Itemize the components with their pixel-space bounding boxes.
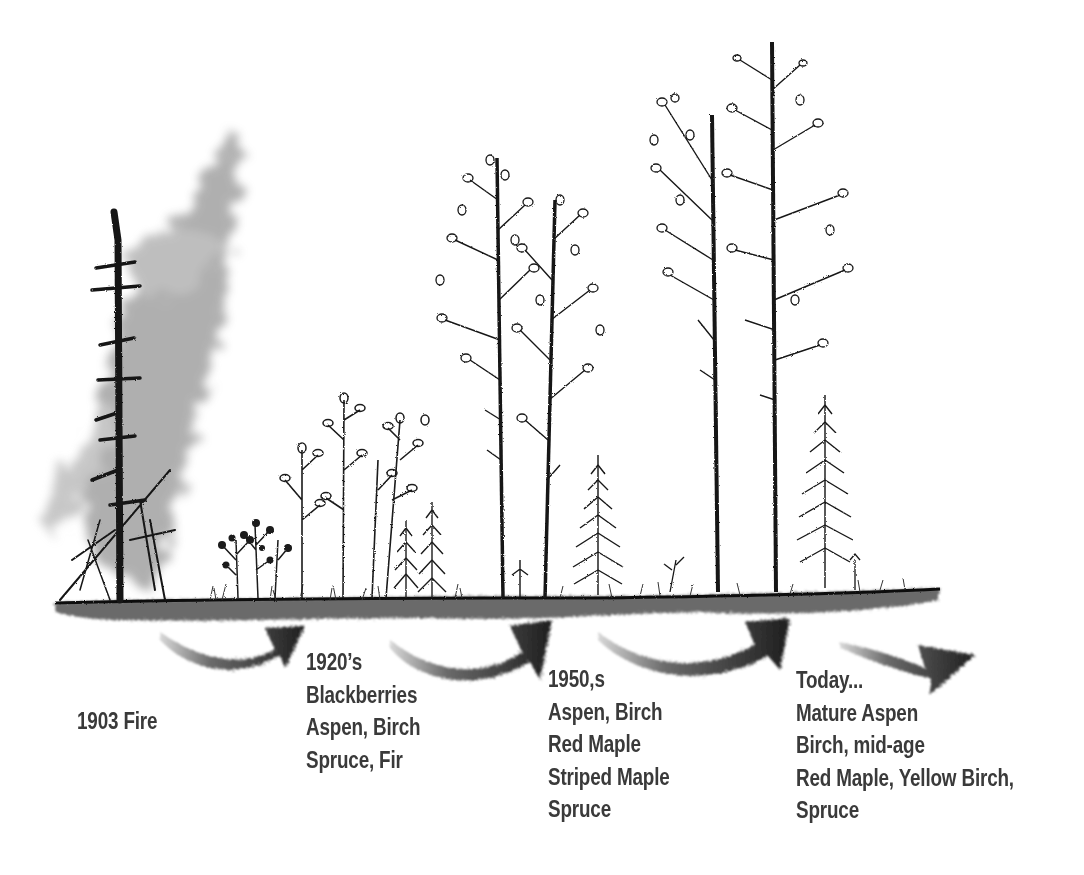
stage-title: 1950,s <box>548 663 670 696</box>
trees-1950s-icon <box>436 155 623 598</box>
species-line: Spruce, Fir <box>306 744 420 777</box>
species-line: Spruce <box>796 794 1014 827</box>
saplings-1920s-icon <box>218 393 446 598</box>
ground <box>55 578 940 621</box>
species-line: Striped Maple <box>548 761 670 794</box>
arrow-1-icon <box>160 626 305 670</box>
stage-label-1920s: 1920’s Blackberries Aspen, Birch Spruce,… <box>306 646 420 776</box>
stage-label-today: Today... Mature Aspen Birch, mid-age Red… <box>796 664 1014 827</box>
stage-title: 1903 Fire <box>77 705 157 738</box>
trees-today-icon <box>650 42 860 592</box>
species-line: Aspen, Birch <box>548 696 670 729</box>
stage-title: Today... <box>796 664 1014 697</box>
species-line: Spruce <box>548 793 670 826</box>
species-line: Red Maple <box>548 728 670 761</box>
species-line: Aspen, Birch <box>306 711 420 744</box>
stage-label-1950s: 1950,s Aspen, Birch Red Maple Striped Ma… <box>548 663 670 826</box>
species-line: Red Maple, Yellow Birch, <box>796 762 1014 795</box>
species-line: Birch, mid-age <box>796 729 1014 762</box>
stage-label-fire: 1903 Fire <box>77 705 157 738</box>
species-line: Mature Aspen <box>796 697 1014 730</box>
stage-title: 1920’s <box>306 646 420 679</box>
species-line: Blackberries <box>306 679 420 712</box>
